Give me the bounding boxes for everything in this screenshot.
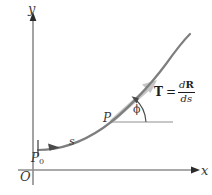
tangent-formula: T = dR ds [154,80,195,104]
formula-denominator-s: s [187,93,192,104]
start-point-label: P0 [31,152,44,164]
arc-length-label: s [69,136,75,147]
start-point-letter: P [31,151,39,165]
formula-numerator-vector: R [185,79,193,90]
start-point-subscript: 0 [39,157,44,166]
tangent-vector-figure: y x O P0 s P ϕ T = dR ds [0,0,212,195]
x-axis-label: x [201,164,208,177]
tangent-point-label: P [103,112,111,124]
formula-fraction: dR ds [178,80,195,104]
formula-tangent-symbol: T [154,86,163,98]
origin-label: O [20,170,31,183]
formula-numerator: dR [178,80,195,91]
x-axis-arrowhead [191,167,200,174]
y-axis-label: y [28,2,35,15]
formula-equals-sign: = [166,86,176,98]
formula-denominator: ds [180,94,194,105]
phi-angle-label: ϕ [133,104,141,115]
